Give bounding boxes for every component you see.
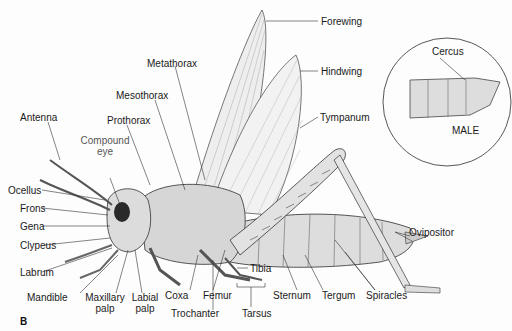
label-metathorax: Metathorax: [147, 58, 197, 69]
label-antenna: Antenna: [20, 112, 57, 123]
label-hindwing: Hindwing: [321, 66, 362, 77]
label-maxillary-palp: Maxillary palp: [80, 292, 130, 314]
label-cercus: Cercus: [432, 46, 464, 57]
label-femur: Femur: [203, 290, 232, 301]
label-ovipositor: Ovipositor: [409, 227, 454, 238]
label-frons: Frons: [20, 203, 46, 214]
label-labrum: Labrum: [20, 267, 54, 278]
inset-caption-male: MALE: [452, 125, 479, 136]
label-tarsus: Tarsus: [242, 308, 271, 319]
label-compound-eye: Compound eye: [70, 135, 140, 157]
label-tergum: Tergum: [322, 290, 355, 301]
label-tibia: Tibia: [250, 263, 271, 274]
compound-eye-shape: [114, 202, 130, 222]
label-tympanum: Tympanum: [320, 112, 369, 123]
label-ocellus: Ocellus: [8, 185, 41, 196]
label-prothorax: Prothorax: [107, 115, 150, 126]
label-coxa: Coxa: [165, 290, 188, 301]
label-labial-palp: Labial palp: [128, 292, 162, 314]
figure-panel-letter: B: [20, 316, 27, 327]
thorax-shape: [140, 184, 245, 264]
label-mesothorax: Mesothorax: [116, 90, 168, 101]
label-mandible: Mandible: [27, 292, 68, 303]
head-shape: [107, 189, 151, 252]
label-trochanter: Trochanter: [171, 308, 219, 319]
label-clypeus: Clypeus: [20, 240, 56, 251]
label-forewing: Forewing: [321, 16, 362, 27]
label-sternum: Sternum: [273, 290, 311, 301]
label-spiracles: Spiracles: [366, 290, 407, 301]
grasshopper-diagram: Forewing Hindwing Metathorax Mesothorax …: [0, 0, 512, 331]
label-gena: Gena: [20, 221, 44, 232]
